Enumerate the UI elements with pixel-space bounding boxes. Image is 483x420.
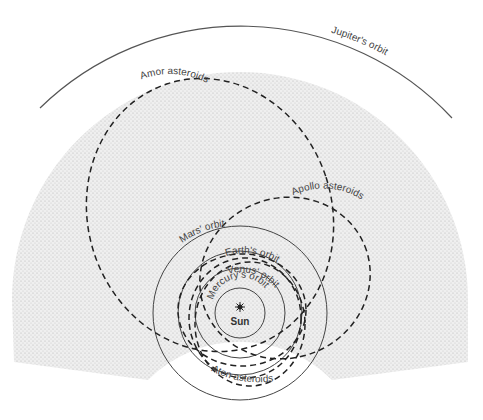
solar-system-diagram: Sun Jupiter's orbit Amor asteroids Apoll…: [0, 0, 483, 420]
sun-icon: [235, 302, 245, 312]
sun-label: Sun: [231, 316, 250, 327]
